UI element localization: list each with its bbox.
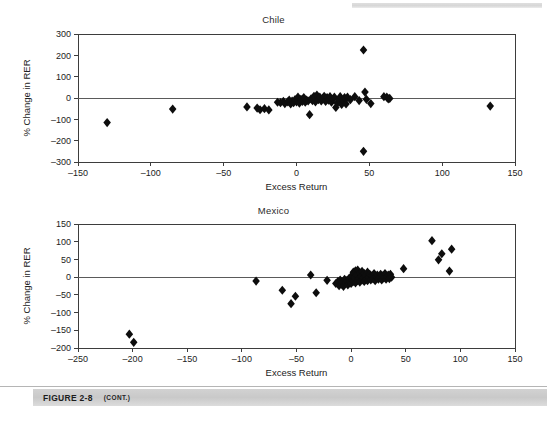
data-point-marker: [287, 299, 295, 308]
data-point-marker: [448, 245, 456, 254]
y-tick-label: 50: [61, 255, 71, 265]
y-tick-label: 300: [56, 29, 71, 39]
y-tick-label: 0: [66, 93, 71, 103]
data-point-marker: [279, 286, 287, 295]
x-tick-label: –50: [216, 168, 231, 178]
y-axis-title: % Change in RER: [21, 59, 32, 136]
data-point-marker: [360, 147, 368, 156]
figure-caption-note: (CONT.): [104, 394, 131, 401]
data-point-marker: [306, 110, 314, 119]
data-point-marker: [252, 276, 260, 285]
x-axis-title: Excess Return: [266, 367, 328, 378]
data-point-marker: [312, 288, 320, 297]
data-point-marker: [360, 45, 368, 54]
x-tick-label: 150: [507, 168, 522, 178]
x-tick-label: –150: [68, 168, 88, 178]
x-tick-label: –250: [68, 354, 88, 364]
y-tick-label: 100: [56, 237, 71, 247]
chart-panel-chile: Chile –300–200–1000100200300–150–100–500…: [0, 8, 547, 198]
data-point-marker: [130, 338, 138, 347]
y-tick-label: –150: [51, 325, 71, 335]
data-point-marker: [292, 292, 300, 301]
y-tick-label: 150: [56, 219, 71, 229]
y-tick-label: –50: [56, 290, 71, 300]
figure-caption-label: FIGURE 2-8: [43, 393, 93, 403]
plot-frame: [78, 224, 515, 348]
x-tick-label: 150: [507, 354, 522, 364]
figure-page: Chile –300–200–1000100200300–150–100–500…: [0, 0, 547, 424]
data-point-group: [103, 45, 494, 156]
data-point-marker: [428, 236, 436, 245]
x-tick-label: –200: [123, 354, 143, 364]
data-point-marker: [103, 118, 111, 127]
y-tick-label: –200: [51, 136, 71, 146]
y-tick-label: –200: [51, 343, 71, 353]
y-tick-label: 100: [56, 72, 71, 82]
x-tick-label: 50: [364, 168, 374, 178]
x-tick-label: 0: [349, 354, 354, 364]
scatter-plot-mexico: –200–150–100–50050100150–250–200–150–100…: [0, 198, 547, 386]
y-tick-label: –100: [51, 115, 71, 125]
x-axis-title: Excess Return: [266, 181, 328, 192]
y-tick-label: –100: [51, 308, 71, 318]
x-tick-label: 100: [435, 168, 450, 178]
y-tick-label: 200: [56, 51, 71, 61]
x-tick-label: –100: [232, 354, 252, 364]
data-point-marker: [243, 102, 251, 111]
data-point-marker: [486, 102, 494, 111]
x-tick-label: –150: [177, 354, 197, 364]
x-tick-label: –100: [141, 168, 161, 178]
data-point-marker: [400, 264, 408, 273]
data-point-marker: [361, 87, 369, 96]
data-point-group: [126, 236, 456, 347]
x-tick-label: 100: [453, 354, 468, 364]
data-point-marker: [446, 267, 454, 276]
x-tick-label: –50: [289, 354, 304, 364]
data-point-marker: [169, 104, 177, 113]
figure-caption-bar: FIGURE 2-8 (CONT.): [33, 389, 547, 406]
y-tick-label: –300: [51, 157, 71, 167]
y-axis-title: % Change in RER: [21, 247, 32, 324]
data-point-marker: [307, 270, 315, 279]
data-point-marker: [126, 330, 134, 339]
scatter-plot-chile: –300–200–1000100200300–150–100–500501001…: [0, 8, 547, 198]
x-tick-label: 50: [401, 354, 411, 364]
caption-divider: [0, 386, 547, 387]
x-tick-label: 0: [294, 168, 299, 178]
y-tick-label: 0: [66, 272, 71, 282]
chart-panel-mexico: Mexico –200–150–100–50050100150–250–200–…: [0, 198, 547, 386]
